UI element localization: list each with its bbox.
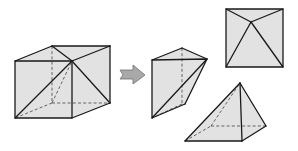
cube-figure <box>15 46 110 118</box>
diagram-canvas <box>0 0 298 151</box>
pyramid-figure <box>185 83 266 141</box>
arrow-icon <box>120 65 145 84</box>
wedge-figure <box>152 48 207 118</box>
diagram-stage <box>0 0 298 151</box>
top-view-figure <box>226 9 283 67</box>
